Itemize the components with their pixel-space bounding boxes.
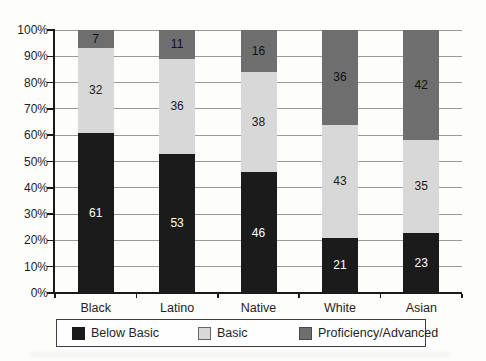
x-tick-5 [461, 294, 463, 298]
value-label: 38 [252, 116, 265, 128]
legend-item-below-basic: Below Basic [72, 320, 159, 346]
value-label: 43 [333, 175, 346, 187]
x-axis-label-native: Native [219, 301, 299, 315]
x-axis-label-black: Black [56, 301, 136, 315]
y-tick-10 [47, 266, 55, 268]
bar-segment-basic-white: 43 [322, 125, 358, 238]
x-tick-4 [380, 294, 382, 298]
bar-segment-basic-native: 38 [241, 72, 277, 172]
x-tick-2 [217, 294, 219, 298]
y-tick-100 [47, 29, 55, 31]
legend-item-basic: Basic [198, 320, 248, 346]
y-tick-20 [47, 240, 55, 242]
y-axis-label-60: 60% [8, 128, 48, 142]
value-label: 53 [170, 217, 183, 229]
bar-segment-basic-black: 32 [78, 48, 114, 132]
legend-label: Below Basic [91, 326, 159, 340]
value-label: 11 [171, 38, 183, 50]
value-label: 42 [415, 79, 428, 91]
legend-label: Proficiency/Advanced [318, 326, 438, 340]
value-label: 7 [92, 33, 99, 45]
y-axis-label-30: 30% [8, 207, 48, 221]
y-axis-label-90: 90% [8, 49, 48, 63]
bar-segment-proficiency-advanced-black: 7 [78, 30, 114, 48]
value-label: 46 [252, 227, 265, 239]
x-axis-label-asian: Asian [381, 301, 461, 315]
y-axis-label-20: 20% [8, 233, 48, 247]
y-tick-80 [47, 82, 55, 84]
bar-segment-basic-latino: 36 [159, 59, 195, 154]
value-label: 21 [333, 259, 346, 271]
y-tick-30 [47, 213, 55, 215]
bar-segment-proficiency-advanced-white: 36 [322, 30, 358, 125]
bar-segment-below-basic-white: 21 [322, 238, 358, 293]
bar-segment-below-basic-asian: 23 [403, 233, 439, 293]
value-label: 35 [415, 180, 428, 192]
y-axis-label-40: 40% [8, 181, 48, 195]
bar-segment-proficiency-advanced-asian: 42 [403, 30, 439, 140]
y-tick-40 [47, 187, 55, 189]
y-tick-50 [47, 161, 55, 163]
legend: Below BasicBasicProficiency/Advanced [56, 319, 426, 347]
y-axis-label-70: 70% [8, 102, 48, 116]
y-axis-label-80: 80% [8, 76, 48, 90]
y-tick-60 [47, 134, 55, 136]
value-label: 32 [89, 84, 102, 96]
legend-swatch-icon [299, 327, 312, 340]
legend-swatch-icon [72, 327, 85, 340]
x-axis-label-latino: Latino [137, 301, 217, 315]
scan-artifact [30, 353, 450, 356]
bar-segment-below-basic-black: 61 [78, 133, 114, 293]
value-label: 36 [170, 100, 183, 112]
legend-label: Basic [217, 326, 248, 340]
bar-segment-below-basic-native: 46 [241, 172, 277, 293]
bar-segment-proficiency-advanced-native: 16 [241, 30, 277, 72]
y-axis-label-100: 100% [8, 23, 48, 37]
bar-segment-proficiency-advanced-latino: 11 [159, 30, 195, 59]
x-axis-label-white: White [300, 301, 380, 315]
x-tick-3 [298, 294, 300, 298]
value-label: 36 [333, 71, 346, 83]
value-label: 23 [415, 257, 428, 269]
legend-swatch-icon [198, 327, 211, 340]
legend-item-proficiency-advanced: Proficiency/Advanced [299, 320, 438, 346]
value-label: 16 [252, 45, 265, 57]
x-tick-0 [54, 294, 56, 298]
y-axis-label-10: 10% [8, 260, 48, 274]
value-label: 61 [89, 207, 102, 219]
x-tick-1 [136, 294, 138, 298]
stacked-bar-chart-figure: 0%10%20%30%40%50%60%70%80%90%100%61327Bl… [0, 0, 486, 361]
y-axis-label-0: 0% [8, 286, 48, 300]
bar-segment-below-basic-latino: 53 [159, 154, 195, 293]
y-tick-70 [47, 108, 55, 110]
y-axis-label-50: 50% [8, 155, 48, 169]
y-tick-90 [47, 56, 55, 58]
bar-segment-basic-asian: 35 [403, 140, 439, 232]
